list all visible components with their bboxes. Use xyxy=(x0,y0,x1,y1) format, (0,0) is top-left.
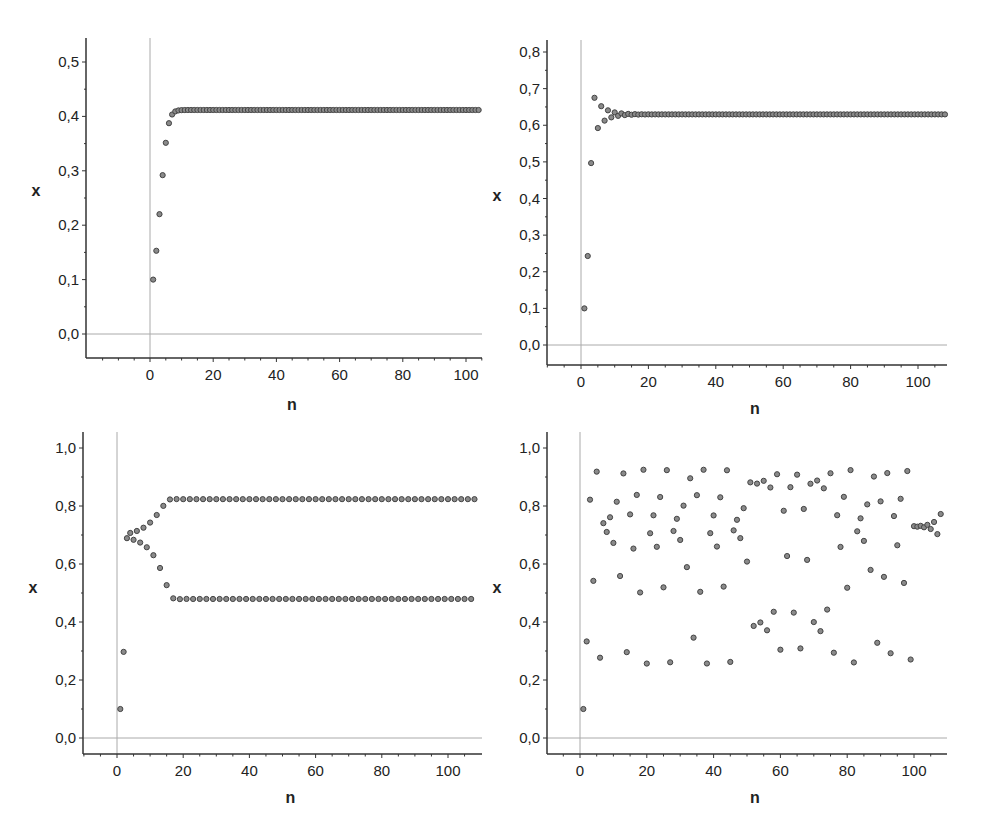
data-point xyxy=(754,481,759,486)
data-point xyxy=(614,499,619,504)
data-point xyxy=(597,655,602,660)
data-point xyxy=(678,537,683,542)
data-point xyxy=(768,485,773,490)
data-point xyxy=(674,516,679,521)
x-tick-label: 80 xyxy=(839,762,856,779)
data-point xyxy=(601,521,606,526)
y-tick-label: 0,2 xyxy=(519,671,540,688)
data-point xyxy=(694,493,699,498)
data-point xyxy=(728,659,733,664)
x-tick-label: 0 xyxy=(576,762,584,779)
x-tick-label: 20 xyxy=(638,762,655,779)
chart-bottom-right: 0,00,20,40,60,81,0020406080100nx xyxy=(0,0,982,834)
data-point xyxy=(664,468,669,473)
data-point xyxy=(848,468,853,473)
data-point xyxy=(895,543,900,548)
data-point xyxy=(621,471,626,476)
data-point xyxy=(591,578,596,583)
data-point xyxy=(808,481,813,486)
data-point xyxy=(644,661,649,666)
data-point xyxy=(905,468,910,473)
data-point xyxy=(721,584,726,589)
data-point xyxy=(818,629,823,634)
data-point xyxy=(858,516,863,521)
data-point xyxy=(658,494,663,499)
data-point xyxy=(801,506,806,511)
data-point xyxy=(611,540,616,545)
data-point xyxy=(774,472,779,477)
data-point xyxy=(935,532,940,537)
x-tick-label: 40 xyxy=(705,762,722,779)
data-point xyxy=(855,529,860,534)
data-point xyxy=(938,511,943,516)
data-point xyxy=(628,512,633,517)
data-point xyxy=(594,469,599,474)
data-point xyxy=(881,574,886,579)
data-point xyxy=(891,513,896,518)
data-point xyxy=(648,531,653,536)
data-point xyxy=(714,544,719,549)
data-point xyxy=(744,559,749,564)
data-point xyxy=(654,544,659,549)
data-point xyxy=(898,496,903,501)
data-point xyxy=(791,610,796,615)
data-point xyxy=(868,567,873,572)
data-point xyxy=(631,546,636,551)
data-point xyxy=(634,492,639,497)
data-point xyxy=(708,531,713,536)
data-point xyxy=(584,639,589,644)
y-tick-label: 0,0 xyxy=(519,729,540,746)
data-point xyxy=(761,478,766,483)
data-point xyxy=(704,661,709,666)
data-point xyxy=(805,557,810,562)
data-point xyxy=(901,580,906,585)
data-point xyxy=(928,526,933,531)
data-point xyxy=(701,467,706,472)
y-tick-label: 0,6 xyxy=(519,555,540,572)
data-point xyxy=(861,538,866,543)
data-point xyxy=(711,513,716,518)
data-point xyxy=(731,528,736,533)
data-point xyxy=(851,660,856,665)
data-point xyxy=(931,519,936,524)
y-tick-label: 1,0 xyxy=(519,439,540,456)
data-point xyxy=(764,628,769,633)
data-point xyxy=(698,589,703,594)
data-point xyxy=(888,651,893,656)
data-point xyxy=(741,506,746,511)
x-tick-label: 100 xyxy=(901,762,926,779)
data-point xyxy=(784,553,789,558)
data-point xyxy=(724,468,729,473)
data-point xyxy=(604,529,609,534)
data-point xyxy=(798,646,803,651)
data-point xyxy=(878,499,883,504)
data-point xyxy=(815,478,820,483)
data-point xyxy=(751,623,756,628)
data-point xyxy=(828,471,833,476)
data-point xyxy=(624,650,629,655)
data-point xyxy=(811,619,816,624)
data-point xyxy=(845,585,850,590)
data-point xyxy=(587,497,592,502)
data-point xyxy=(841,494,846,499)
data-point xyxy=(607,515,612,520)
data-point xyxy=(825,607,830,612)
data-point xyxy=(831,650,836,655)
data-point xyxy=(788,485,793,490)
data-point xyxy=(688,476,693,481)
y-axis-label: x xyxy=(493,579,502,596)
y-tick-label: 0,8 xyxy=(519,497,540,514)
data-point xyxy=(671,528,676,533)
data-point xyxy=(668,660,673,665)
data-point xyxy=(821,486,826,491)
data-point xyxy=(684,565,689,570)
y-tick-label: 0,4 xyxy=(519,613,540,630)
data-point xyxy=(738,536,743,541)
data-point xyxy=(641,467,646,472)
data-point xyxy=(581,706,586,711)
data-point xyxy=(758,620,763,625)
data-point xyxy=(838,544,843,549)
data-point xyxy=(681,503,686,508)
data-point xyxy=(795,472,800,477)
data-point xyxy=(718,495,723,500)
